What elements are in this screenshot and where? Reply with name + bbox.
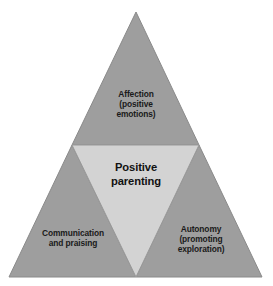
segment-affection-shape bbox=[72, 12, 199, 145]
positive-parenting-diagram: Affection (positive emotions) Positive p… bbox=[0, 0, 273, 286]
triangle-diagram-graphic bbox=[0, 0, 273, 286]
